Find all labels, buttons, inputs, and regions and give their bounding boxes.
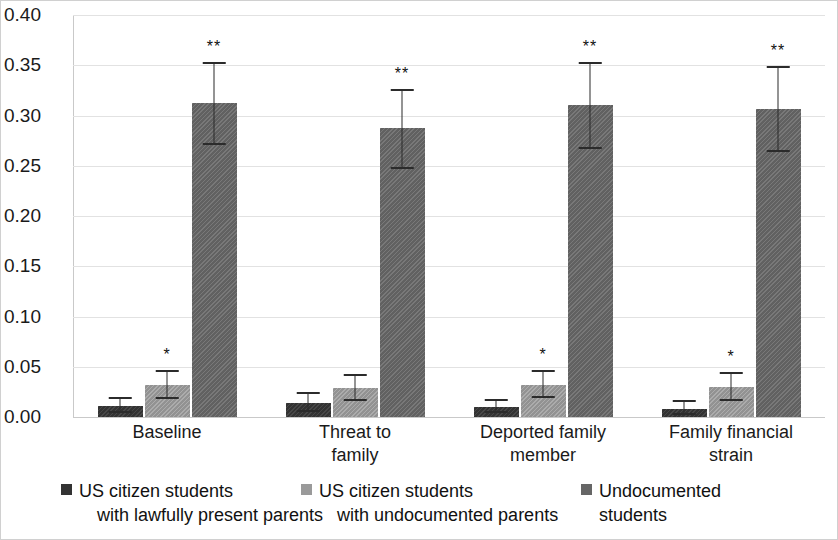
legend-label: US citizen studentswith undocumented par… bbox=[319, 479, 558, 528]
bar-column[interactable] bbox=[474, 15, 519, 417]
error-bar-cap-bottom bbox=[673, 413, 696, 415]
bar-column[interactable]: ** bbox=[756, 15, 801, 417]
error-bar-cap-top bbox=[203, 62, 226, 64]
x-axis-label-line: Family financial bbox=[637, 421, 825, 444]
significance-annotation: * bbox=[727, 349, 734, 365]
bar[interactable] bbox=[192, 103, 237, 417]
chart-legend: US citizen studentswith lawfully present… bbox=[1, 479, 838, 537]
error-bar-cap-bottom bbox=[579, 147, 602, 149]
bar-group: *** bbox=[449, 15, 637, 417]
x-axis-category-label: Family financialstrain bbox=[637, 421, 825, 466]
gridline bbox=[73, 417, 825, 418]
error-bar bbox=[167, 371, 168, 398]
bar-column[interactable] bbox=[662, 15, 707, 417]
error-bar-cap-top bbox=[391, 89, 414, 91]
error-bar-cap-bottom bbox=[109, 411, 132, 413]
error-bar-cap-top bbox=[109, 397, 132, 399]
error-bar bbox=[120, 398, 121, 412]
bar-column[interactable]: ** bbox=[192, 15, 237, 417]
error-bar bbox=[543, 371, 544, 397]
x-axis-label-line: family bbox=[261, 444, 449, 467]
error-bar-cap-bottom bbox=[485, 411, 508, 413]
plot-area: 0.000.050.100.150.200.250.300.350.40 ***… bbox=[73, 15, 825, 417]
bar-column[interactable]: * bbox=[521, 15, 566, 417]
error-bar-cap-top bbox=[579, 62, 602, 64]
bar-column[interactable] bbox=[286, 15, 331, 417]
legend-item[interactable]: US citizen studentswith lawfully present… bbox=[61, 479, 323, 528]
y-axis-tick-label: 0.20 bbox=[0, 205, 41, 227]
bar[interactable] bbox=[380, 128, 425, 417]
y-axis-tick-label: 0.40 bbox=[0, 4, 41, 26]
bar-group: ** bbox=[261, 15, 449, 417]
error-bar-cap-top bbox=[485, 399, 508, 401]
x-axis-label-line: Baseline bbox=[73, 421, 261, 444]
x-axis-label-line: Threat to bbox=[261, 421, 449, 444]
error-bar-cap-bottom bbox=[767, 150, 790, 152]
error-bar bbox=[308, 393, 309, 411]
x-axis-category-label: Baseline bbox=[73, 421, 261, 444]
error-bar-cap-top bbox=[767, 66, 790, 68]
bar-column[interactable]: * bbox=[709, 15, 754, 417]
error-bar-cap-top bbox=[344, 374, 367, 376]
error-bar-cap-top bbox=[156, 370, 179, 372]
y-axis-tick-label: 0.25 bbox=[0, 155, 41, 177]
error-bar-cap-bottom bbox=[297, 410, 320, 412]
x-axis-category-label: Deported familymember bbox=[449, 421, 637, 466]
legend-item[interactable]: Undocumentedstudents bbox=[581, 479, 721, 528]
y-axis-tick-label: 0.05 bbox=[0, 356, 41, 378]
y-axis-tick-label: 0.10 bbox=[0, 306, 41, 328]
y-axis-tick-label: 0.00 bbox=[0, 406, 41, 428]
error-bar-cap-top bbox=[720, 372, 743, 374]
y-axis-tick-label: 0.30 bbox=[0, 105, 41, 127]
x-axis-label-line: Deported family bbox=[449, 421, 637, 444]
error-bar-cap-bottom bbox=[391, 167, 414, 169]
error-bar-cap-top bbox=[297, 392, 320, 394]
bar-column[interactable] bbox=[333, 15, 378, 417]
x-axis-label-line: strain bbox=[637, 444, 825, 467]
significance-annotation: ** bbox=[771, 43, 785, 59]
x-axis-category-label: Threat tofamily bbox=[261, 421, 449, 466]
error-bar-cap-bottom bbox=[532, 396, 555, 398]
legend-label-line: US citizen students bbox=[79, 479, 323, 503]
significance-annotation: * bbox=[539, 347, 546, 363]
error-bar-cap-bottom bbox=[203, 143, 226, 145]
error-bar-cap-top bbox=[532, 370, 555, 372]
y-axis-tick-label: 0.15 bbox=[0, 255, 41, 277]
bar-column[interactable]: * bbox=[145, 15, 190, 417]
chart-figure: 0.000.050.100.150.200.250.300.350.40 ***… bbox=[0, 0, 838, 540]
error-bar-cap-bottom bbox=[720, 399, 743, 401]
error-bar-cap-bottom bbox=[156, 397, 179, 399]
legend-label: US citizen studentswith lawfully present… bbox=[79, 479, 323, 528]
legend-swatch-icon bbox=[301, 484, 312, 495]
significance-annotation: * bbox=[163, 347, 170, 363]
bar[interactable] bbox=[568, 105, 613, 417]
significance-annotation: ** bbox=[395, 66, 409, 82]
error-bar bbox=[778, 67, 779, 150]
error-bar-cap-top bbox=[673, 400, 696, 402]
error-bar bbox=[590, 63, 591, 147]
legend-label-line: Undocumented bbox=[599, 479, 721, 503]
legend-swatch-icon bbox=[61, 484, 72, 495]
significance-annotation: ** bbox=[207, 39, 221, 55]
legend-item[interactable]: US citizen studentswith undocumented par… bbox=[301, 479, 558, 528]
bar-column[interactable]: ** bbox=[380, 15, 425, 417]
legend-label-line: US citizen students bbox=[319, 479, 558, 503]
bar[interactable] bbox=[756, 109, 801, 417]
error-bar bbox=[355, 375, 356, 400]
x-axis-label-line: member bbox=[449, 444, 637, 467]
legend-label-line: students bbox=[599, 503, 721, 527]
bar-column[interactable]: ** bbox=[568, 15, 613, 417]
legend-swatch-icon bbox=[581, 484, 592, 495]
error-bar-cap-bottom bbox=[344, 399, 367, 401]
error-bar bbox=[214, 63, 215, 143]
y-axis-tick-label: 0.35 bbox=[0, 54, 41, 76]
significance-annotation: ** bbox=[583, 39, 597, 55]
error-bar bbox=[402, 90, 403, 167]
x-axis-labels: BaselineThreat tofamilyDeported familyme… bbox=[73, 421, 825, 473]
legend-label-line: with lawfully present parents bbox=[97, 503, 323, 527]
bar-column[interactable] bbox=[98, 15, 143, 417]
bar-group: *** bbox=[637, 15, 825, 417]
legend-label: Undocumentedstudents bbox=[599, 479, 721, 528]
bar-group: *** bbox=[73, 15, 261, 417]
legend-label-line: with undocumented parents bbox=[337, 503, 558, 527]
